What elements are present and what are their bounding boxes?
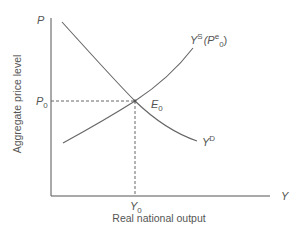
x-axis-title: Real national output xyxy=(112,212,205,224)
y-axis-title: Aggregate price level xyxy=(11,55,23,154)
ad-as-diagram: P Y Aggregate price level Real national … xyxy=(0,0,305,239)
y-axis-symbol: P xyxy=(37,14,45,26)
aggregate-supply-curve xyxy=(63,48,193,143)
aggregate-demand-label: YD xyxy=(202,134,215,148)
price-level-p0-label: P0 xyxy=(36,95,48,110)
aggregate-demand-curve xyxy=(62,22,197,141)
equilibrium-point xyxy=(134,100,137,103)
equilibrium-e0-label: E0 xyxy=(151,98,163,113)
aggregate-supply-label: YS(Pe0) xyxy=(190,32,227,49)
x-axis-symbol: Y xyxy=(281,190,289,202)
